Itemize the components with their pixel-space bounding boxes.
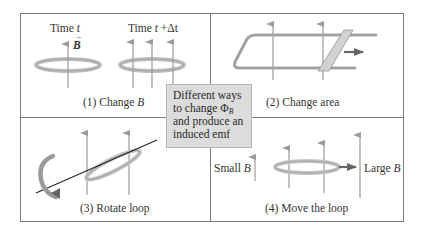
label-field-vector-b: → B — [73, 40, 81, 52]
summary-line-4: induced emf — [173, 128, 245, 141]
rotation-arrow — [40, 156, 56, 197]
summary-line-2: to change ΦB — [173, 102, 245, 115]
rotation-axis — [36, 140, 157, 193]
panel-4-move-loop-illustration — [255, 135, 360, 198]
summary-line-1: Different ways — [173, 89, 245, 102]
center-summary-box: Different ways to change ΦB and produce … — [166, 84, 252, 148]
caption-move-loop: (4) Move the loop — [265, 203, 348, 215]
label-large-b: Large B — [364, 163, 401, 175]
panel-1-change-b-illustration — [36, 42, 184, 88]
caption-rotate-loop: (3) Rotate loop — [80, 203, 150, 215]
summary-line-3: and produce an — [173, 115, 245, 128]
panel-3-rotate-loop-illustration — [36, 133, 157, 199]
panel-2-change-area-illustration — [235, 24, 377, 80]
label-small-b: Small B — [214, 163, 251, 175]
caption-change-area: (2) Change area — [266, 97, 339, 109]
label-time-t-plus-dt: Time t +Δt — [128, 23, 178, 35]
vector-arrow-accent: → — [74, 33, 82, 41]
caption-change-b: (1) Change B — [83, 97, 144, 109]
